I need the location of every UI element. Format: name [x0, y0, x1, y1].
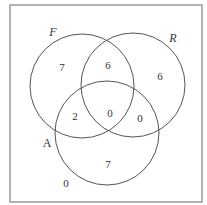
- region-r-and-a: 0: [137, 112, 143, 124]
- region-r-only: 6: [157, 70, 163, 82]
- region-f-r-a: 0: [107, 107, 113, 119]
- region-f-and-a: 2: [72, 110, 78, 122]
- region-f-and-r: 6: [105, 59, 111, 71]
- venn-diagram: F R A 7 6 6 2 0 0 7 0: [0, 0, 207, 205]
- set-label-r: R: [168, 31, 177, 45]
- set-label-a: A: [43, 136, 52, 150]
- region-none: 0: [63, 177, 69, 189]
- region-a-only: 7: [105, 158, 111, 170]
- set-label-f: F: [48, 25, 57, 39]
- region-f-only: 7: [59, 61, 65, 73]
